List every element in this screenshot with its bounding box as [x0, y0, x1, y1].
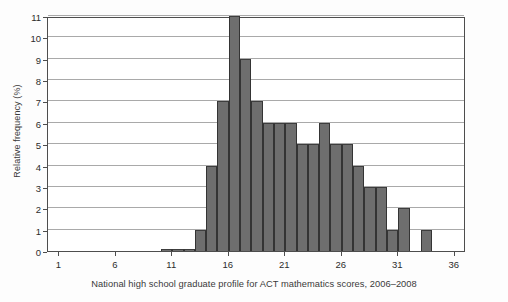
y-tick-mark	[43, 17, 47, 18]
y-tick-label: 0	[21, 247, 41, 258]
y-tick-label: 9	[21, 54, 41, 65]
x-tick-mark	[171, 252, 172, 256]
y-tick-label: 7	[21, 97, 41, 108]
x-tick-mark	[115, 252, 116, 256]
x-tick-label: 31	[382, 259, 412, 270]
y-tick-mark	[43, 81, 47, 82]
y-tick-label: 4	[21, 161, 41, 172]
x-axis-ticks: 16111621263136	[47, 252, 465, 278]
x-tick-mark	[454, 252, 455, 256]
y-tick-mark	[43, 167, 47, 168]
x-tick-mark	[284, 252, 285, 256]
y-tick-label: 10	[21, 33, 41, 44]
x-tick-label: 16	[213, 259, 243, 270]
gridline	[48, 15, 464, 16]
y-axis-title: Relative frequency (%)	[12, 41, 22, 221]
x-tick-label: 36	[439, 259, 469, 270]
x-tick-mark	[58, 252, 59, 256]
y-tick-mark	[43, 60, 47, 61]
y-tick-label: 2	[21, 204, 41, 215]
x-tick-label: 26	[326, 259, 356, 270]
histogram-figure: Relative frequency (%) 01234567891011 16…	[0, 0, 508, 302]
y-tick-mark	[43, 231, 47, 232]
y-axis-ticks: 01234567891011	[47, 17, 465, 252]
x-tick-label: 11	[156, 259, 186, 270]
x-tick-label: 6	[100, 259, 130, 270]
y-tick-label: 11	[21, 12, 41, 23]
x-tick-mark	[341, 252, 342, 256]
y-tick-label: 5	[21, 140, 41, 151]
y-tick-label: 6	[21, 118, 41, 129]
y-tick-mark	[43, 145, 47, 146]
figure-caption: National high school graduate profile fo…	[0, 279, 508, 289]
x-tick-mark	[228, 252, 229, 256]
y-tick-label: 1	[21, 225, 41, 236]
y-tick-mark	[43, 38, 47, 39]
y-tick-mark	[43, 102, 47, 103]
y-tick-label: 8	[21, 76, 41, 87]
y-tick-label: 3	[21, 182, 41, 193]
y-tick-mark	[43, 188, 47, 189]
y-tick-mark	[43, 124, 47, 125]
y-tick-mark	[43, 209, 47, 210]
x-tick-label: 21	[269, 259, 299, 270]
x-tick-label: 1	[43, 259, 73, 270]
x-tick-mark	[397, 252, 398, 256]
